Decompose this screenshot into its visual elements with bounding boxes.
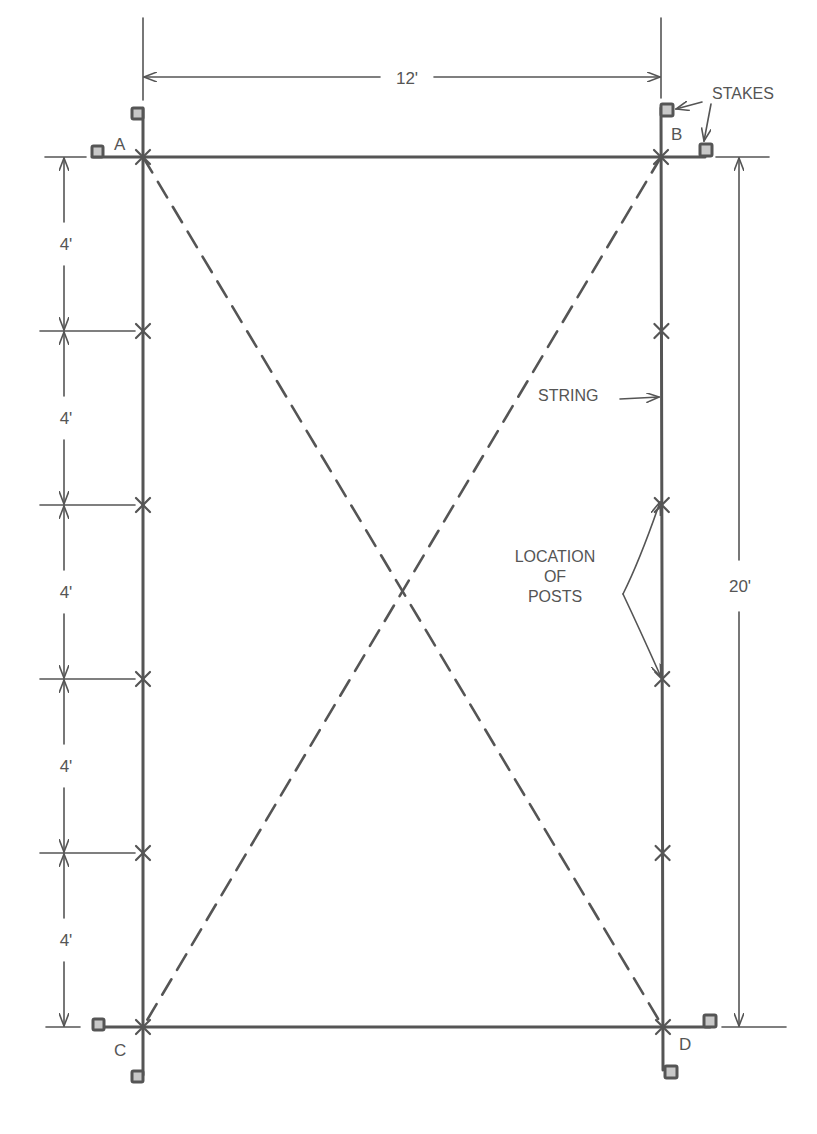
stake-a-top: [132, 108, 143, 119]
location-label-line2: OF: [544, 568, 566, 585]
stake-c-left: [93, 1019, 104, 1030]
segment-dimension-label-2: 4': [60, 409, 73, 428]
stake-c-bottom: [132, 1071, 143, 1082]
stake-b-right: [700, 144, 712, 156]
stake-d-bottom: [665, 1066, 677, 1078]
stake-a-left: [92, 146, 103, 157]
string-leader: [620, 397, 659, 399]
stakes-leader-1: [676, 102, 702, 109]
string-label: STRING: [538, 387, 598, 404]
segment-dimension-label-3: 4': [60, 583, 73, 602]
stake-b-top: [661, 104, 673, 116]
segment-dimension-label-5: 4': [60, 931, 73, 950]
corner-label-d: D: [679, 1035, 691, 1054]
stakes-label: STAKES: [712, 85, 774, 102]
post-layout-diagram: A B C D 12' 20' 4'4'4'4'4' STAKES STRING…: [0, 0, 817, 1134]
length-dimension-label: 20': [729, 577, 751, 596]
location-label-line3: POSTS: [528, 588, 582, 605]
location-leader-lower: [623, 594, 661, 677]
segment-dimension-label-4: 4': [60, 757, 73, 776]
string-line-right: [661, 108, 663, 1070]
stakes-leader-2: [704, 104, 711, 141]
corner-label-b: B: [671, 125, 682, 144]
width-dimension-label: 12': [396, 69, 418, 88]
corner-label-a: A: [114, 135, 126, 154]
location-label-line1: LOCATION: [515, 548, 596, 565]
location-leader-upper: [623, 502, 660, 594]
segment-dimension-label-1: 4': [60, 235, 73, 254]
corner-label-c: C: [114, 1041, 126, 1060]
stake-d-right: [704, 1015, 716, 1027]
